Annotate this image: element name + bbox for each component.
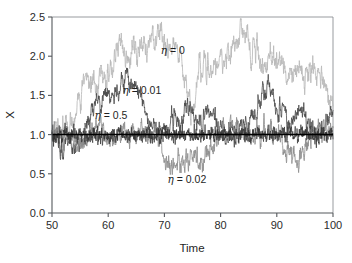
y-tick-label: 2.5 (30, 11, 45, 23)
figure-root: 5060708090100 0.00.51.01.52.02.5 η = 0η … (0, 0, 352, 263)
x-tick-label: 90 (271, 219, 283, 231)
y-tick-label: 0.0 (30, 207, 45, 219)
y-axis-title: X (4, 111, 16, 119)
x-tick-label: 70 (158, 219, 170, 231)
y-tick-label: 1.5 (30, 89, 45, 101)
series-annotation-3: η = 0.5 (95, 109, 128, 121)
x-tick-label: 60 (102, 219, 114, 231)
series-annotation-2: η = 0.02 (168, 173, 207, 185)
x-axis-title: Time (179, 242, 204, 254)
x-tick-label: 80 (214, 219, 226, 231)
series-annotation-1: η = 0.01 (123, 84, 162, 96)
x-tick-label: 50 (46, 219, 58, 231)
y-tick-label: 2.0 (30, 50, 45, 62)
y-tick-label: 1.0 (30, 129, 45, 141)
x-tick-label: 100 (324, 219, 342, 231)
y-tick-label: 0.5 (30, 168, 45, 180)
chart-canvas: 5060708090100 0.00.51.01.52.02.5 η = 0η … (0, 0, 352, 263)
series-annotation-0: η = 0 (161, 44, 185, 56)
